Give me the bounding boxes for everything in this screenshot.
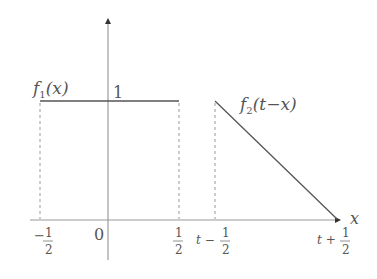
- svg-text:t −: t −: [196, 233, 215, 247]
- svg-text:2: 2: [175, 243, 183, 257]
- svg-text:2: 2: [222, 243, 230, 257]
- tick-t-plus-half: t + 1 2: [317, 226, 350, 257]
- svg-text:t +: t +: [317, 233, 336, 247]
- svg-text:1: 1: [175, 226, 183, 240]
- origin-label: 0: [94, 225, 104, 244]
- convolution-diagram: f1(x) 1 f2(t−x) x 0 − 1 2 1 2 t − 1 2 t …: [0, 0, 377, 279]
- height-label: 1: [113, 83, 123, 102]
- x-axis-label: x: [350, 209, 359, 228]
- svg-text:2: 2: [45, 243, 53, 257]
- f1-label: f1(x): [31, 78, 69, 100]
- tick-t-minus-half: t − 1 2: [196, 226, 230, 257]
- f2-label: f2(t−x): [238, 94, 297, 116]
- tick-pos-half: 1 2: [173, 226, 183, 257]
- svg-text:1: 1: [45, 226, 53, 240]
- svg-text:1: 1: [222, 226, 230, 240]
- tick-neg-half: − 1 2: [34, 226, 53, 257]
- svg-text:1: 1: [342, 226, 350, 240]
- f2-ramp-line: [215, 101, 337, 219]
- svg-text:2: 2: [342, 243, 350, 257]
